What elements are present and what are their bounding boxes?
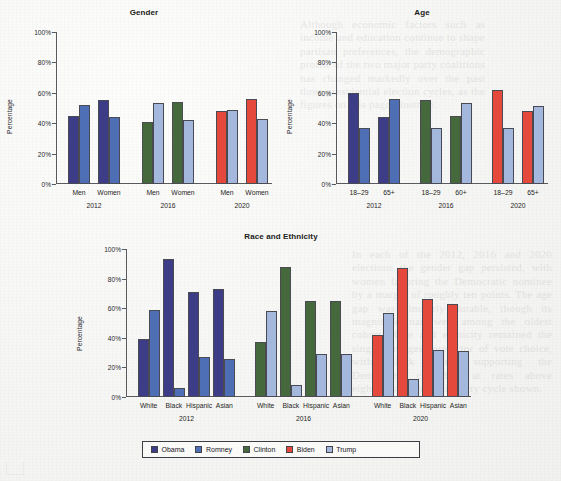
legend-item-trump[interactable]: Trump [326,446,356,453]
legend-label-romney: Romney [206,446,232,453]
x-axis-category-label: White [374,402,391,409]
bar-romney-asian-2012 [224,359,235,397]
x-axis-category-label: Women [171,189,194,196]
bar-romney-65--2012 [389,99,400,184]
y-axis-tick-label: 20% [318,150,331,157]
legend-swatch-romney [195,446,202,453]
legend: ObamaRomneyClintonBidenTrump [142,441,420,458]
y-axis-tick [332,62,336,63]
y-axis-tick [122,338,126,339]
bar-obama-black-2012 [163,259,174,397]
chart-title-gender: Gender [8,8,280,17]
x-axis-group-label-2012: 2012 [366,202,381,209]
x-axis-category-label: White [257,402,274,409]
bar-trump-hispanic-2016 [316,354,327,397]
bar-biden-black-2020 [397,268,408,397]
legend-item-biden[interactable]: Biden [286,446,314,453]
bar-biden-men-2020 [216,111,227,184]
y-axis-tick [332,32,336,33]
y-axis-tick-label: 60% [38,89,51,96]
y-axis-tick [52,32,56,33]
bar-obama-women-2012 [98,100,109,184]
bar-obama-white-2012 [138,339,149,397]
x-axis-group-label-2020: 2020 [413,415,428,422]
bar-trump-white-2016 [266,311,277,397]
bar-obama-asian-2012 [213,289,224,397]
y-axis-line [336,32,337,184]
bar-trump-black-2020 [408,379,419,397]
y-axis-title-age: Percentage [286,99,293,134]
bar-obama-65--2012 [378,117,389,184]
legend-swatch-clinton [243,446,250,453]
y-axis-tick-label: 0% [321,181,331,188]
bar-biden-white-2020 [372,335,383,397]
y-axis-tick-label: 40% [108,334,121,341]
y-axis-tick [122,367,126,368]
x-axis-group-label-2016: 2016 [438,202,453,209]
x-axis-category-label: Hispanic [186,402,212,409]
y-axis-tick-label: 60% [318,89,331,96]
legend-item-clinton[interactable]: Clinton [243,446,275,453]
y-axis-tick-label: 80% [38,59,51,66]
plot-area-race: 0%20%40%60%80%100%WhiteBlackHispanicAsia… [126,249,471,397]
x-axis-category-label: Women [97,189,120,196]
y-axis-tick [332,184,336,185]
y-axis-tick [332,154,336,155]
legend-label-obama: Obama [162,446,185,453]
bar-clinton-asian-2016 [330,301,341,397]
x-axis-group-label-2016: 2016 [160,202,175,209]
y-axis-tick-label: 100% [314,29,331,36]
bar-romney-hispanic-2012 [199,357,210,397]
bar-clinton-women-2016 [172,102,183,184]
x-axis-category-label: 18–29 [350,189,369,196]
bar-clinton-men-2016 [142,122,153,184]
x-axis-category-label: Hispanic [303,402,329,409]
chart-age: Age Percentage 0%20%40%60%80%100%18–2965… [288,8,556,220]
x-axis-group-label-2020: 2020 [234,202,249,209]
y-axis-tick-label: 80% [318,59,331,66]
bar-clinton-black-2016 [280,267,291,397]
page-edge-smudge [6,462,24,475]
bar-trump-women-2020 [257,119,268,184]
legend-item-obama[interactable]: Obama [151,446,184,453]
bar-romney-white-2012 [149,310,160,397]
scanned-page: Although economic factors such as income… [0,0,561,481]
bar-romney-men-2012 [79,105,90,184]
bar-clinton-white-2016 [255,342,266,397]
bar-romney-black-2012 [174,388,185,397]
bar-obama-18-29-2012 [348,93,359,184]
bar-trump-asian-2016 [341,354,352,397]
x-axis-category-label: Black [166,402,183,409]
bar-trump-18-29-2016 [431,128,442,184]
y-axis-tick [52,93,56,94]
y-axis-tick [122,279,126,280]
bar-trump-white-2020 [383,313,394,397]
legend-item-romney[interactable]: Romney [195,446,232,453]
x-axis-category-label: Men [220,189,233,196]
y-axis-tick-label: 20% [108,364,121,371]
y-axis-title-gender: Percentage [6,99,13,134]
x-axis-category-label: 65+ [527,189,539,196]
bar-trump-18-29-2020 [503,128,514,184]
legend-label-trump: Trump [336,446,356,453]
bar-clinton-60--2016 [450,116,461,184]
x-axis-group-label-2016: 2016 [296,415,311,422]
bar-biden-asian-2020 [447,304,458,397]
x-axis-group-label-2020: 2020 [510,202,525,209]
y-axis-tick-label: 60% [108,305,121,312]
x-axis-category-label: White [140,402,157,409]
legend-swatch-trump [326,446,333,453]
chart-gender: Gender Percentage 0%20%40%60%80%100%MenW… [8,8,280,220]
plot-area-age: 0%20%40%60%80%100%18–2965+201218–2960+20… [336,32,548,184]
y-axis-tick-label: 40% [318,120,331,127]
legend-label-clinton: Clinton [254,446,276,453]
bar-trump-hispanic-2020 [433,350,444,397]
bar-biden-18-29-2020 [492,90,503,184]
y-axis-line [56,32,57,184]
x-axis-category-label: Asian [333,402,350,409]
y-axis-tick-label: 0% [111,394,121,401]
y-axis-tick [52,184,56,185]
bar-obama-hispanic-2012 [188,292,199,397]
y-axis-tick-label: 0% [41,181,51,188]
x-axis-category-label: 65+ [383,189,395,196]
